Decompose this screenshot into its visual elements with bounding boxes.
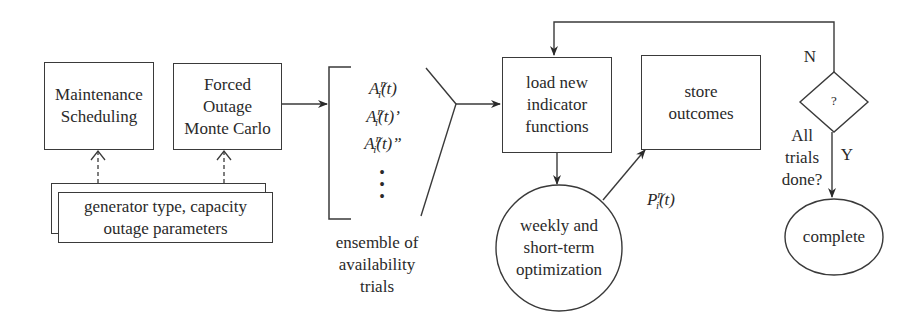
ensemble-caption: ensemble of availability trials — [322, 232, 432, 298]
generator-params-box: generator type, capacity outage paramete… — [58, 192, 273, 243]
maintenance-scheduling-box: Maintenance Scheduling — [44, 62, 154, 150]
load-indicator-label: load new indicator functions — [525, 72, 588, 138]
ensemble-item-3: Ani(t)” — [351, 127, 415, 160]
generator-params-label: generator type, capacity outage paramete… — [84, 196, 247, 240]
load-indicator-box: load new indicator functions — [502, 57, 612, 153]
decision-symbol: ? — [824, 90, 844, 112]
yes-label: Y — [837, 144, 857, 166]
optimization-label: weekly and short-term optimization — [496, 215, 622, 281]
forced-outage-label: Forced Outage Monte Carlo — [184, 74, 270, 140]
no-label: N — [800, 46, 820, 68]
complete-label: complete — [789, 226, 879, 248]
store-outcomes-label: store outcomes — [668, 81, 733, 125]
output-variable-label: Pni(t) — [636, 183, 686, 216]
ensemble-bracket — [329, 67, 351, 219]
store-outcomes-box: store outcomes — [641, 55, 761, 150]
decision-question: All trials done? — [771, 125, 833, 191]
ensemble-funnel — [421, 68, 456, 216]
forced-outage-box: Forced Outage Monte Carlo — [173, 63, 282, 150]
ensemble-ellipsis: • • • — [360, 167, 404, 203]
maintenance-scheduling-label: Maintenance Scheduling — [55, 84, 143, 128]
